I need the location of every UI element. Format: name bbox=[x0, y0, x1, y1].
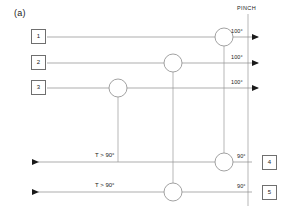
hot-stream-2-temperature: 100° bbox=[231, 54, 243, 60]
stream-box-2[interactable]: 2 bbox=[31, 55, 46, 70]
cold-stream-4-duty: T > 90° bbox=[95, 152, 114, 158]
cold-stream-5-duty: T > 90° bbox=[95, 182, 114, 188]
exchanger-b-top bbox=[164, 54, 182, 72]
exchanger-b-bottom bbox=[164, 183, 182, 201]
cold-stream-4-temperature: 90° bbox=[237, 153, 246, 159]
stream-box-3[interactable]: 3 bbox=[31, 80, 46, 95]
pinch-label: PINCH bbox=[237, 5, 256, 11]
stream-box-1[interactable]: 1 bbox=[31, 29, 46, 44]
hot-stream-1-temperature: 100° bbox=[231, 28, 243, 34]
stream-box-4[interactable]: 4 bbox=[262, 155, 277, 170]
hot-stream-3-temperature: 100° bbox=[231, 79, 243, 85]
cold-stream-5-temperature: 90° bbox=[237, 183, 246, 189]
pinch-grid-diagram: (a) 1 2 3 bbox=[0, 0, 291, 220]
exchanger-a-bottom bbox=[215, 153, 233, 171]
stream-box-5[interactable]: 5 bbox=[262, 185, 277, 200]
exchanger-c-top bbox=[109, 79, 127, 97]
